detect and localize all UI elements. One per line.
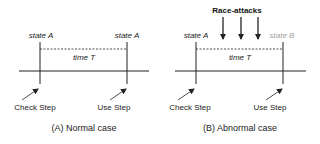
check-step-label: Check Step (14, 103, 56, 112)
state-left-label: state A (29, 31, 54, 40)
caption-normal-case: (A) Normal case (51, 123, 116, 133)
check-step-arrow-icon (22, 89, 38, 100)
use-step-label: Use Step (254, 103, 287, 112)
race-condition-diagram: state A state A time T Check Step Use St… (0, 0, 320, 144)
interval-label: time T (73, 53, 96, 62)
check-step-arrow-icon (178, 89, 194, 100)
use-step-arrow-icon (266, 89, 282, 100)
use-step-arrow-icon (110, 89, 126, 100)
panel-abnormal-case: Race-attacks state A state B time T Chec… (169, 6, 306, 133)
use-step-label: Use Step (98, 103, 131, 112)
state-left-label: state A (184, 31, 209, 40)
race-attacks-label: Race-attacks (212, 6, 262, 15)
caption-abnormal-case: (B) Abnormal case (203, 123, 277, 133)
interval-label: time T (229, 53, 252, 62)
panel-normal-case: state A state A time T Check Step Use St… (14, 31, 149, 133)
check-step-label: Check Step (169, 103, 211, 112)
state-right-label: state B (270, 31, 296, 40)
state-right-label: state A (115, 31, 140, 40)
